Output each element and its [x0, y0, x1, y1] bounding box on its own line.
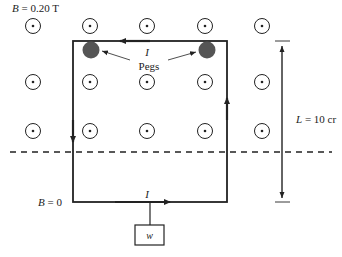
field-dot-icon — [140, 75, 155, 90]
field-dot-icon — [83, 75, 98, 90]
field-dot-icon — [26, 19, 41, 34]
field-dot-icon — [255, 75, 270, 90]
length-dimension — [275, 41, 290, 202]
field-strength-label: B = 0.20 T — [12, 2, 59, 14]
field-dot-icon — [83, 19, 98, 34]
current-label-bottom: I — [144, 188, 150, 200]
magnetic-loop-diagram: B = 0.20 T Pegs I — [0, 0, 342, 257]
field-dot-icon — [140, 124, 155, 139]
field-dot-icon — [255, 19, 270, 34]
field-dot-icon — [198, 75, 213, 90]
field-free-label: B = 0 — [38, 196, 62, 208]
pegs-pointer-right — [168, 52, 196, 60]
pegs-pointer-left — [102, 51, 130, 60]
current-label-top: I — [144, 46, 150, 58]
peg-left — [83, 42, 100, 59]
peg-right — [199, 42, 216, 59]
field-dot-icon — [198, 19, 213, 34]
field-dot-icon — [26, 124, 41, 139]
field-dot-icon — [198, 124, 213, 139]
weight-label: w — [146, 230, 153, 241]
field-dot-icon — [83, 124, 98, 139]
field-dot-icon — [255, 124, 270, 139]
length-label: L = 10 cr — [295, 113, 336, 125]
field-dot-icon — [26, 75, 41, 90]
pegs-label: Pegs — [139, 60, 160, 72]
field-dot-icon — [140, 19, 155, 34]
field-dot-grid — [26, 19, 270, 139]
